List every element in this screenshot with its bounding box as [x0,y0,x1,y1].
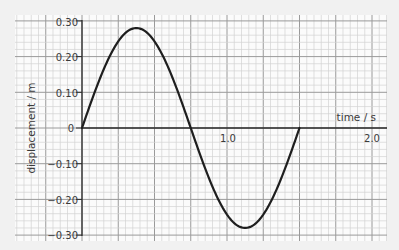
y-tick-label: 0.30 [56,17,78,28]
y-tick-label: 0 [68,123,74,134]
y-tick-label: −0.30 [47,230,78,241]
x-tick-label: 2.0 [364,133,380,144]
displacement-time-chart: 0.30 0.20 0.10 0 −0.10 −0.20 −0.30 1.0 2… [0,0,399,250]
y-tick-label: 0.10 [56,88,78,99]
y-tick-label: 0.20 [56,52,78,63]
x-axis-title: time / s [337,111,376,123]
x-tick-label: 1.0 [220,133,236,144]
y-tick-label: −0.20 [47,195,78,206]
y-tick-label: −0.10 [47,159,78,170]
y-axis-title: displacement / m [25,82,37,173]
